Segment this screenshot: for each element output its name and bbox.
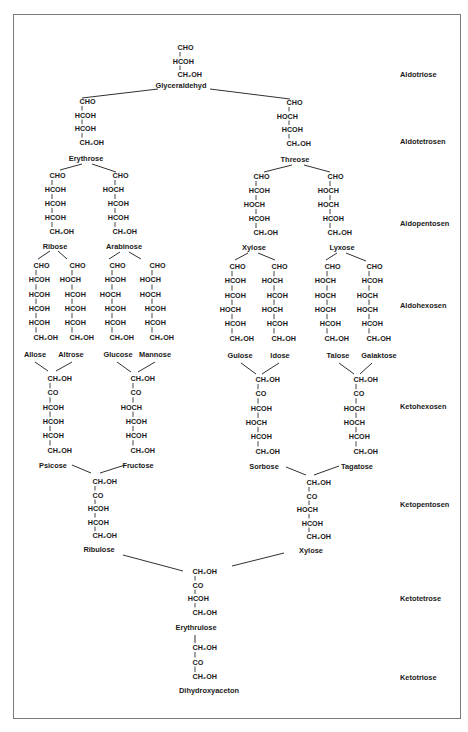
formula-line: CH₂OH <box>131 446 155 455</box>
sugar-name-arabinose: Arabinose <box>106 242 142 251</box>
formula-line: CH₂OH <box>70 333 94 342</box>
formula-line: HCOH <box>362 276 383 285</box>
formula-line: CO <box>193 581 204 590</box>
formula-line: CH₂OH <box>48 446 72 455</box>
formula-line: HCOH <box>29 290 50 299</box>
formula-line: CH₂OH <box>110 333 134 342</box>
formula-line: CH₂OH <box>50 227 74 236</box>
sugar-name-erythrulose: Erythrulose <box>175 623 216 632</box>
sugar-talose: CHOHOCHHOCHHOCHHCOHCH₂OHTalose <box>315 262 350 360</box>
formula-line: CO <box>256 389 267 398</box>
sugar-name-ribulose: Ribulose <box>83 545 114 554</box>
formula-line: HCOH <box>105 318 126 327</box>
formula-line: HCOH <box>173 57 194 66</box>
formula-line: HCOH <box>320 319 341 328</box>
formula-line: HOCH <box>140 275 161 284</box>
sugar-name-dihydroxyaceton: Dihydroxyaceton <box>179 686 239 695</box>
formula-line: CHO <box>80 97 96 106</box>
formula-line: CO <box>48 388 59 397</box>
formula-line: CO <box>354 389 365 398</box>
sugar-arabinose: CHOHOCHHCOHHCOHCH₂OHArabinose <box>103 171 142 251</box>
formula-line: CO <box>93 491 104 500</box>
formula-line: HOCH <box>297 505 318 514</box>
sugar-tagatose: CH₂OHCOHOCHHOCHHCOHCH₂OHTagatose <box>341 375 378 471</box>
formula-line: HCOH <box>225 276 246 285</box>
formula-line: HCOH <box>249 214 270 223</box>
sugar-name-mannose: Mannose <box>139 350 171 359</box>
formula-line: CHO <box>50 171 66 180</box>
sugar-name-sorbose: Sorbose <box>249 462 279 471</box>
row-label-aldopentosen: Aldopentosen <box>400 219 450 228</box>
formula-line: CO <box>307 492 318 501</box>
formula-line: HCOH <box>267 291 288 300</box>
formula-line: HCOH <box>45 199 66 208</box>
formula-line: HCOH <box>43 417 64 426</box>
row-label-ketopentosen: Ketopentosen <box>400 500 450 509</box>
sugar-name-talose: Talose <box>327 351 350 360</box>
formula-line: CH₂OH <box>328 228 352 237</box>
formula-line: HCOH <box>29 275 50 284</box>
formula-line: CH₂OH <box>256 375 280 384</box>
sugar-fructose: CH₂OHCOHOCHHCOHHCOHCH₂OHFructose <box>121 374 155 470</box>
formula-line: CO <box>193 658 204 667</box>
formula-line: HCOH <box>108 199 129 208</box>
formula-line: CHO <box>325 262 341 271</box>
formula-line: HCOH <box>43 431 64 440</box>
formula-line: HOCH <box>315 291 336 300</box>
formula-line: HCOH <box>126 417 147 426</box>
formula-line: CH₂OH <box>256 447 280 456</box>
formula-line: HCOH <box>88 504 109 513</box>
formula-line: CH₂OH <box>367 334 391 343</box>
formula-line: HCOH <box>323 214 344 223</box>
formula-line: HOCH <box>246 418 267 427</box>
sugar-name-allose: Allose <box>24 350 46 359</box>
formula-line: HCOH <box>29 318 50 327</box>
row-label-ketohexosen: Ketohexosen <box>400 402 447 411</box>
branch-lines <box>35 89 372 643</box>
formula-line: HCOH <box>302 519 323 528</box>
formula-line: CH₂OH <box>93 477 117 486</box>
formula-line: HCOH <box>349 432 370 441</box>
sugar-name-tagatose: Tagatose <box>341 462 373 471</box>
formula-line: HCOH <box>251 432 272 441</box>
sugar-ribose: CHOHCOHHCOHHCOHCH₂OHRibose <box>43 171 74 251</box>
formula-line: HCOH <box>225 291 246 300</box>
sugar-xylulose: CH₂OHCOHOCHHCOHCH₂OHXylose <box>297 478 331 555</box>
sugar-erythrose: CHOHCOHHCOHCH₂OHErythrose <box>69 97 104 163</box>
formula-line: CHO <box>328 172 344 181</box>
sugar-name-ribose: Ribose <box>43 242 68 251</box>
formula-line: CH₂OH <box>93 531 117 540</box>
formula-line: CHO <box>178 43 194 52</box>
row-label-aldotriose: Aldotriose <box>400 70 437 79</box>
formula-line: HOCH <box>262 276 283 285</box>
sugar-tree-diagram: Aldotriose Aldotetrosen Aldopentosen Ald… <box>0 0 468 732</box>
formula-line: HOCH <box>344 418 365 427</box>
formula-line: CHO <box>113 171 129 180</box>
sugar-name-psicose: Psicose <box>39 461 67 470</box>
sugar-name-galaktose: Galaktose <box>361 351 396 360</box>
formula-line: CHO <box>150 261 166 270</box>
formula-line: CH₂OH <box>354 375 378 384</box>
formula-line: HOCH <box>220 305 241 314</box>
formula-line: HCOH <box>75 111 96 120</box>
sugar-name-glyceraldehyd: Glyceraldehyd <box>156 81 207 90</box>
formula-line: CH₂OH <box>193 643 217 652</box>
formula-line: HOCH <box>121 403 142 412</box>
sugar-sorbose: CH₂OHCOHCOHHOCHHCOHCH₂OHSorbose <box>246 375 280 471</box>
sugar-allose: CHOHCOHHCOHHCOHHCOHCH₂OHAllose <box>24 261 58 359</box>
formula-line: CHO <box>230 262 246 271</box>
formula-line: HCOH <box>267 319 288 328</box>
formula-line: HOCH <box>318 200 339 209</box>
formula-line: HCOH <box>188 594 209 603</box>
formula-line: HCOH <box>45 213 66 222</box>
sugar-glyceraldehyd: CHOHCOHCH₂OHGlyceraldehyd <box>156 43 207 90</box>
formula-line: CH₂OH <box>230 334 254 343</box>
sugar-idose: CHOHOCHHCOHHOCHHCOHCH₂OHIdose <box>262 262 296 360</box>
formula-line: HOCH <box>357 291 378 300</box>
formula-line: HCOH <box>43 403 64 412</box>
formula-line: CH₂OH <box>307 532 331 541</box>
sugar-erythrulose: CH₂OHCOHCOHCH₂OHErythrulose <box>175 567 216 632</box>
sugar-ribulose: CH₂OHCOHCOHHCOHCH₂OHRibulose <box>83 477 117 554</box>
formula-line: CH₂OH <box>193 567 217 576</box>
sugar-threose: CHOHOCHHCOHCH₂OHThreose <box>277 98 311 164</box>
